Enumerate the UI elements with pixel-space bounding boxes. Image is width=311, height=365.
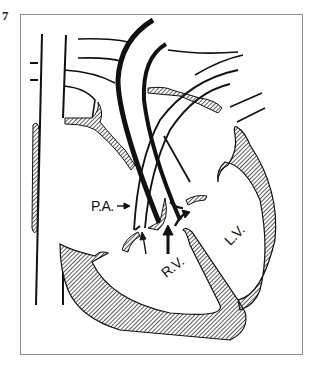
atrial-lines xyxy=(64,39,265,122)
mitral-leaflet xyxy=(186,196,207,206)
label-pulmonary-artery: P.A. xyxy=(91,198,114,214)
pulmonary-valve-leaflet xyxy=(122,232,140,252)
heart-diagram xyxy=(0,0,311,365)
pulmonary-artery-walls xyxy=(134,70,238,230)
leaflet-curve xyxy=(170,202,183,208)
